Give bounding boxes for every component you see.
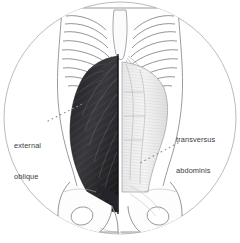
label-external-oblique-line1: external xyxy=(14,141,41,151)
illustration-figure: external oblique transversus abdominis xyxy=(0,0,240,243)
figure-contents xyxy=(48,8,183,242)
label-transversus-abdominis-line2: abdominis xyxy=(176,166,215,176)
label-transversus-abdominis-line1: transversus xyxy=(176,135,215,145)
label-external-oblique: external oblique xyxy=(14,121,41,203)
label-external-oblique-line2: oblique xyxy=(14,172,41,182)
label-transversus-abdominis: transversus abdominis xyxy=(176,115,215,197)
